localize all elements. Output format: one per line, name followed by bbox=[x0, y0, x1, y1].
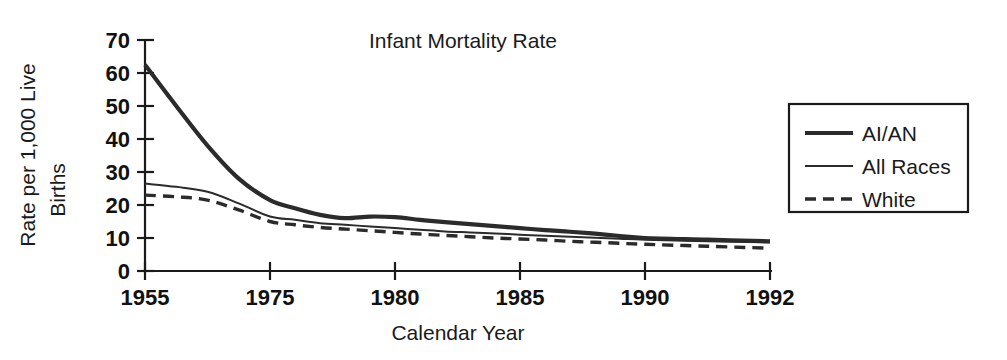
legend-label-ai-an: AI/AN bbox=[862, 122, 917, 145]
y-axis-label-line1: Rate per 1,000 Live bbox=[16, 63, 39, 246]
y-tick-label: 20 bbox=[106, 193, 130, 218]
x-tick-label: 1955 bbox=[121, 285, 170, 310]
y-axis-label: Rate per 1,000 Live Births bbox=[16, 63, 69, 246]
x-tick-label: 1990 bbox=[621, 285, 670, 310]
x-tick-label: 1992 bbox=[746, 285, 795, 310]
y-tick-label: 70 bbox=[106, 28, 130, 53]
legend-label-all-races: All Races bbox=[862, 155, 951, 178]
chart-legend: AI/ANAll RacesWhite bbox=[789, 104, 968, 212]
y-tick-label: 30 bbox=[106, 160, 130, 185]
x-tick-label: 1985 bbox=[496, 285, 545, 310]
series-line-ai-an bbox=[145, 65, 770, 242]
x-tick-label: 1975 bbox=[246, 285, 295, 310]
chart-series-group bbox=[145, 65, 770, 248]
x-tick-label: 1980 bbox=[371, 285, 420, 310]
x-axis-label: Calendar Year bbox=[391, 321, 524, 344]
y-axis-label-line2: Births bbox=[46, 163, 69, 217]
y-tick-label: 40 bbox=[106, 127, 130, 152]
chart-title: Infant Mortality Rate bbox=[369, 29, 557, 52]
y-tick-label: 60 bbox=[106, 61, 130, 86]
y-tick-label: 0 bbox=[118, 259, 130, 284]
y-tick-label: 50 bbox=[106, 94, 130, 119]
legend-label-white: White bbox=[862, 188, 916, 211]
series-line-all-races bbox=[145, 184, 770, 243]
x-axis-ticks: 195519751980198519901992 bbox=[121, 262, 795, 310]
y-tick-label: 10 bbox=[106, 226, 130, 251]
chart-svg: Infant Mortality Rate Rate per 1,000 Liv… bbox=[0, 0, 1007, 360]
infant-mortality-chart-figure: Infant Mortality Rate Rate per 1,000 Liv… bbox=[0, 0, 1007, 360]
